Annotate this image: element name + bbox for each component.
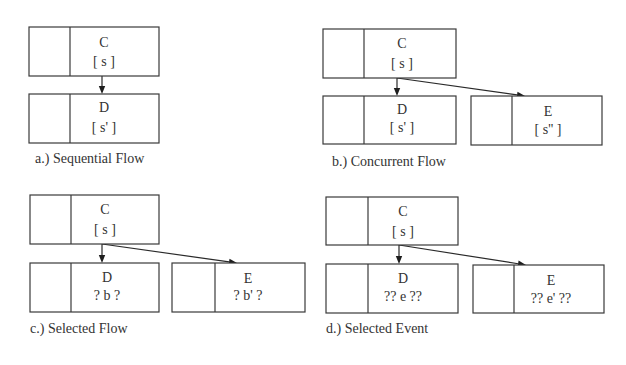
panel-c: C[ s ]D? b ?E? b' ?c.) Selected Flow <box>30 195 305 337</box>
state-box-d: D[ s' ] <box>323 96 456 144</box>
flow-arrow <box>99 244 105 263</box>
flow-arrow <box>99 76 105 94</box>
panel-a: C[ s ]D[ s' ]a.) Sequential Flow <box>29 27 159 167</box>
state-name: D <box>397 102 407 117</box>
state-name: D <box>99 100 109 115</box>
state-box-c: C[ s ] <box>29 27 159 76</box>
panels: C[ s ]D[ s' ]a.) Sequential FlowC[ s ]D[… <box>29 27 604 337</box>
panel-caption: d.) Selected Event <box>326 321 428 337</box>
state-box-c: C[ s ] <box>30 195 159 244</box>
state-box-e: E? b' ? <box>172 263 305 312</box>
flow-arrow <box>394 78 400 96</box>
state-annotation: [ s'' ] <box>535 122 562 137</box>
state-name: E <box>547 273 556 288</box>
state-box-c: C[ s ] <box>326 197 458 245</box>
arrowhead-icon <box>394 88 400 96</box>
state-name: C <box>398 204 407 219</box>
state-name: C <box>100 202 109 217</box>
flow-arrow <box>397 78 525 98</box>
state-box-c: C[ s ] <box>323 29 456 78</box>
state-annotation: ?? e ?? <box>384 289 422 304</box>
panel-caption: b.) Concurrent Flow <box>332 154 447 170</box>
flow-diagram-canvas: C[ s ]D[ s' ]a.) Sequential FlowC[ s ]D[… <box>0 0 626 365</box>
box-outline <box>471 96 602 145</box>
state-annotation: [ s ] <box>93 54 115 69</box>
state-name: E <box>244 271 253 286</box>
state-annotation: [ s' ] <box>92 120 116 135</box>
state-box-e: E[ s'' ] <box>471 96 602 145</box>
state-annotation: [ s' ] <box>390 120 414 135</box>
state-annotation: [ s ] <box>391 56 413 71</box>
state-name: D <box>398 271 408 286</box>
state-annotation: ?? e' ?? <box>531 291 572 306</box>
state-name: E <box>544 104 553 119</box>
state-annotation: ? b ? <box>94 288 120 303</box>
state-box-d: D[ s' ] <box>29 94 159 143</box>
state-annotation: [ s ] <box>392 224 414 239</box>
state-annotation: [ s ] <box>94 222 116 237</box>
flow-arrow <box>102 244 237 265</box>
state-name: D <box>102 270 112 285</box>
panel-b: C[ s ]D[ s' ]E[ s'' ]b.) Concurrent Flow <box>323 29 602 170</box>
state-box-d: D?? e ?? <box>326 264 458 313</box>
arrowhead-icon <box>99 86 105 94</box>
state-box-d: D? b ? <box>30 263 159 312</box>
box-outline <box>323 29 456 78</box>
state-annotation: ? b' ? <box>234 288 263 303</box>
flow-arrow <box>396 245 402 264</box>
panel-caption: c.) Selected Flow <box>30 321 128 337</box>
panel-d: C[ s ]D?? e ??E?? e' ??d.) Selected Even… <box>326 197 604 337</box>
panel-caption: a.) Sequential Flow <box>35 151 145 167</box>
state-box-e: E?? e' ?? <box>473 265 604 313</box>
arrowhead-icon <box>99 255 105 263</box>
box-outline <box>29 94 159 143</box>
state-name: C <box>99 35 108 50</box>
arrowhead-icon <box>396 256 402 264</box>
state-name: C <box>397 36 406 51</box>
